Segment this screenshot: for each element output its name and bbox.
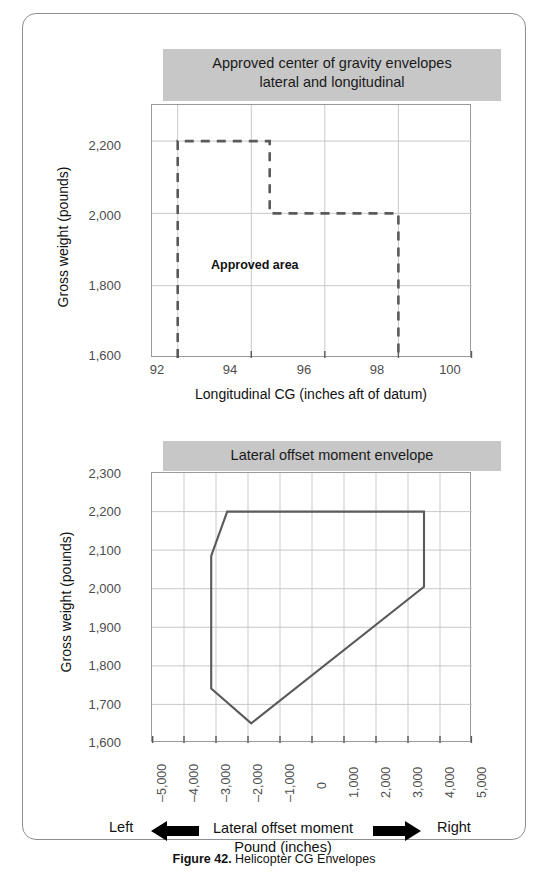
chart2-ytick-1800: 1,800 (61, 658, 121, 673)
chart2-xtick-1000: 1,000 (347, 767, 361, 798)
chart2-ytick-2200: 2,200 (61, 504, 121, 519)
chart2-x-axis-label-line1: Lateral offset moment (178, 819, 388, 838)
chart2-ytick-1600: 1,600 (61, 735, 121, 750)
chart2-ytick-2100: 2,100 (61, 543, 121, 558)
chart2-xtick-minus1000: –1,000 (283, 764, 297, 802)
chart2-title-text: Lateral offset moment envelope (163, 446, 501, 465)
direction-left-label: Left (109, 819, 133, 835)
chart2-xtick-minus2000: –2,000 (251, 764, 265, 802)
chart1-ytick-2200: 2,200 (61, 138, 121, 153)
chart2-plot-area (151, 472, 471, 742)
figure-caption: Figure 42. Helicopter CG Envelopes (0, 852, 548, 866)
chart2-xtick-4000: 4,000 (443, 767, 457, 798)
chart1-x-tickmarks (178, 351, 472, 358)
figure-card: Approved center of gravity envelopes lat… (22, 13, 526, 840)
chart1-ytick-2000: 2,000 (61, 208, 121, 223)
chart2-xtick-minus4000: –4,000 (187, 764, 201, 802)
chart1-xtick-100: 100 (430, 362, 470, 377)
chart2-ytick-2000: 2,000 (61, 581, 121, 596)
chart2-xtick-2000: 2,000 (379, 767, 393, 798)
chart1-ytick-1800: 1,800 (61, 278, 121, 293)
chart1-approved-envelope (178, 141, 399, 358)
chart2-xtick-minus5000: –5,000 (155, 764, 169, 802)
chart2-ytick-1700: 1,700 (61, 697, 121, 712)
chart2-xtick-0: 0 (315, 782, 329, 789)
chart1-xtick-94: 94 (210, 362, 250, 377)
figure-caption-text: Helicopter CG Envelopes (232, 852, 376, 866)
chart1-ytick-1600: 1,600 (61, 348, 121, 363)
chart2-ytick-1900: 1,900 (61, 620, 121, 635)
chart1-xtick-92: 92 (137, 362, 177, 377)
chart2-xtick-minus3000: –3,000 (219, 764, 233, 802)
chart1-title-line2: lateral and longitudinal (163, 73, 501, 92)
chart2-xtick-5000: 5,000 (475, 767, 489, 798)
chart2-lateral-envelope (211, 512, 424, 724)
chart2-vertical-gridlines (184, 473, 440, 743)
chart1-xtick-98: 98 (357, 362, 397, 377)
chart1-vertical-gridlines (178, 105, 399, 358)
figure-caption-number: Figure 42. (173, 852, 232, 866)
arrow-right-icon (373, 821, 421, 841)
chart2-title-banner: Lateral offset moment envelope (163, 441, 501, 471)
chart1-xtick-96: 96 (284, 362, 324, 377)
chart1-approved-area-annotation: Approved area (211, 258, 299, 272)
chart1-x-axis-label: Longitudinal CG (inches aft of datum) (101, 386, 521, 402)
chart2-ytick-2300: 2,300 (61, 466, 121, 481)
chart1-svg (152, 105, 472, 358)
chart2-svg (152, 473, 472, 743)
direction-right-label: Right (437, 819, 471, 835)
chart1-title-line1: Approved center of gravity envelopes (163, 54, 501, 73)
chart1-title-banner: Approved center of gravity envelopes lat… (163, 49, 501, 101)
chart2-xtick-3000: 3,000 (411, 767, 425, 798)
chart2-x-tickmarks (153, 736, 472, 743)
chart1-y-axis-label: Gross weight (pounds) (55, 152, 71, 322)
chart1-plot-area (151, 104, 471, 357)
